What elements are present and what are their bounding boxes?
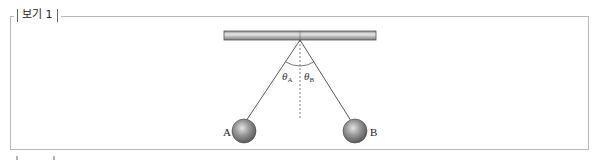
angle-b-label: θB [304,70,314,84]
pendulum-diagram: θA θB A B [0,0,599,160]
string-b [300,40,353,124]
ball-b [343,119,367,143]
angle-arc-b [300,62,314,66]
ball-a [232,119,256,143]
ball-b-label: B [370,126,377,138]
angle-a-label: θA [282,70,292,84]
support-rod [224,31,376,40]
ball-a-label: A [223,126,231,138]
angle-arc-a [286,62,301,66]
